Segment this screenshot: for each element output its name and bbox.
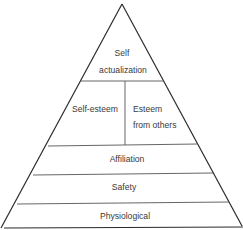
label-self: Self bbox=[115, 48, 130, 58]
label-physiological: Physiological bbox=[100, 211, 150, 221]
level-esteem: Self-esteem Esteem from others bbox=[72, 104, 176, 130]
label-self-esteem: Self-esteem bbox=[72, 104, 118, 114]
level-self-actualization: Self actualization bbox=[99, 48, 147, 75]
label-esteem: Esteem bbox=[133, 104, 162, 114]
label-affiliation: Affiliation bbox=[110, 154, 145, 164]
divider-esteem-affiliation bbox=[48, 144, 198, 146]
label-actualization: actualization bbox=[99, 65, 147, 75]
pyramid-left-edge bbox=[1, 4, 122, 228]
divider-affiliation-safety bbox=[33, 173, 213, 175]
divider-safety-physiological bbox=[17, 202, 229, 204]
pyramid-diagram: Self actualization Self-esteem Esteem fr… bbox=[0, 0, 243, 230]
pyramid-right-edge bbox=[122, 4, 242, 226]
label-safety: Safety bbox=[112, 182, 137, 192]
pyramid-base bbox=[4, 227, 243, 228]
label-from-others: from others bbox=[133, 120, 176, 130]
